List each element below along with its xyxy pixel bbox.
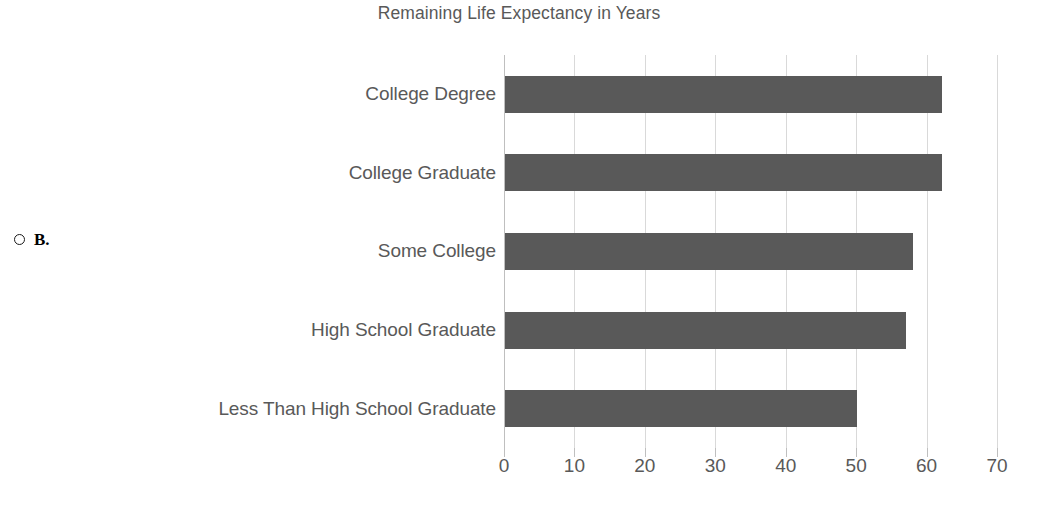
bar: [505, 76, 942, 113]
chart-title-text: Remaining Life Expectancy in Years: [378, 3, 661, 24]
category-label: Less Than High School Graduate: [218, 369, 496, 448]
tick-label: 20: [634, 455, 655, 477]
plot-area: [504, 55, 997, 448]
value-axis-tick-labels: 010203040506070: [504, 455, 997, 485]
category-label: College Graduate: [349, 134, 496, 213]
bar: [505, 233, 913, 270]
tick-label: 30: [705, 455, 726, 477]
category-label: High School Graduate: [311, 291, 496, 370]
tick-label: 40: [775, 455, 796, 477]
gridline: [927, 55, 928, 448]
bar: [505, 390, 857, 427]
bar: [505, 312, 906, 349]
tick-label: 0: [499, 455, 510, 477]
tick-label: 50: [846, 455, 867, 477]
bar: [505, 154, 942, 191]
category-label: Some College: [378, 212, 496, 291]
tick-label: 10: [564, 455, 585, 477]
category-axis-labels: College DegreeCollege GraduateSome Colle…: [0, 55, 504, 448]
gridline: [997, 55, 998, 448]
category-label: College Degree: [365, 55, 496, 134]
tick-label: 60: [916, 455, 937, 477]
tick-label: 70: [986, 455, 1007, 477]
chart-title: Remaining Life Expectancy in Years: [0, 3, 1042, 24]
